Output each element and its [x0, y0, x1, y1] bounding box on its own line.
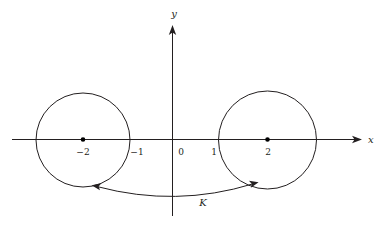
contour-pointer-arc — [92, 181, 259, 197]
y-axis — [169, 25, 176, 216]
figure-canvas — [0, 0, 392, 230]
contour-label-k: K — [199, 198, 206, 208]
tick-label-one: 1 — [211, 148, 217, 157]
contour-arc-path — [98, 184, 253, 196]
left-center-dot — [81, 137, 86, 142]
y-axis-label: y — [171, 9, 177, 19]
x-axis — [12, 136, 362, 143]
tick-label-minus-1: −1 — [130, 148, 143, 157]
tick-label-two: 2 — [265, 148, 271, 157]
tick-label-minus-2: −2 — [76, 148, 89, 157]
x-axis-label: x — [368, 135, 374, 145]
figure-root: −2 −1 0 1 2 x y K — [0, 0, 392, 230]
right-center-dot — [265, 137, 270, 142]
tick-label-zero: 0 — [178, 148, 184, 157]
